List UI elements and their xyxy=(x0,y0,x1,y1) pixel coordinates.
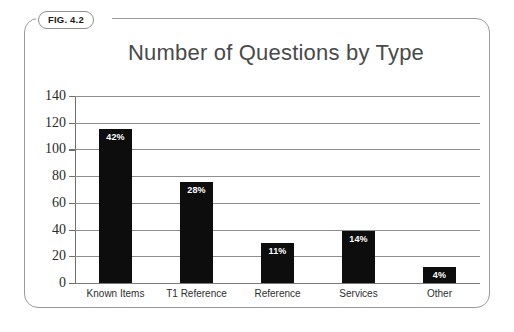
chart-title: Number of Questions by Type xyxy=(70,40,482,66)
bar-data-label: 28% xyxy=(180,185,213,195)
gridline xyxy=(75,176,480,177)
y-tick-mark xyxy=(69,149,75,150)
y-tick-mark xyxy=(69,176,75,177)
x-axis-tick-labels: Known ItemsT1 ReferenceReferenceServices… xyxy=(75,288,480,304)
x-tick-label: Other xyxy=(427,288,452,299)
x-tick-label: Reference xyxy=(254,288,300,299)
plot-area: 42%28%11%14%4% xyxy=(75,96,480,283)
y-tick-label: 100 xyxy=(45,141,66,157)
gridline xyxy=(75,123,480,124)
bar-data-label: 4% xyxy=(423,270,456,280)
bar: 42% xyxy=(99,129,132,283)
x-tick-label: Known Items xyxy=(87,288,145,299)
y-tick-mark xyxy=(69,96,75,97)
bar-data-label: 11% xyxy=(261,246,294,256)
bar-data-label: 14% xyxy=(342,234,375,244)
y-tick-mark xyxy=(69,123,75,124)
bar: 14% xyxy=(342,231,375,283)
y-tick-mark xyxy=(69,203,75,204)
y-tick-label: 60 xyxy=(52,195,66,211)
y-tick-mark xyxy=(69,283,75,284)
y-tick-mark xyxy=(69,256,75,257)
y-tick-label: 80 xyxy=(52,168,66,184)
y-tick-mark xyxy=(69,230,75,231)
x-tick-label: T1 Reference xyxy=(166,288,227,299)
y-tick-label: 140 xyxy=(45,88,66,104)
y-tick-label: 120 xyxy=(45,115,66,131)
bar: 4% xyxy=(423,267,456,283)
y-axis-tick-labels: 020406080100120140 xyxy=(20,96,66,283)
x-tick-label: Services xyxy=(339,288,377,299)
y-tick-label: 20 xyxy=(52,248,66,264)
figure-number-tab: FIG. 4.2 xyxy=(38,11,94,29)
bar-data-label: 42% xyxy=(99,132,132,142)
bar: 11% xyxy=(261,243,294,283)
y-tick-label: 40 xyxy=(52,222,66,238)
gridline xyxy=(75,283,480,284)
gridline xyxy=(75,203,480,204)
y-tick-label: 0 xyxy=(59,275,66,291)
gridline xyxy=(75,149,480,150)
gridline xyxy=(75,230,480,231)
bar: 28% xyxy=(180,182,213,284)
gridline xyxy=(75,96,480,97)
